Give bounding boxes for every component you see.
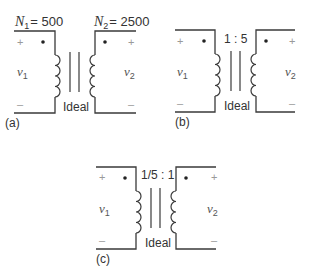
secondary-minus: – [211,234,218,246]
ideal-label: Ideal [224,99,250,113]
secondary-plus: + [211,171,217,183]
secondary-voltage-label: v2 [124,64,135,81]
secondary-coil-icon [90,55,95,97]
primary-voltage-label: v1 [177,64,188,81]
secondary-voltage-label: v2 [285,64,296,81]
primary-voltage-label: v1 [99,201,110,218]
secondary-coil-icon [171,191,176,233]
secondary-plus: + [128,36,134,48]
panel-caption: (c) [96,252,110,266]
primary-minus: – [177,97,184,109]
turns-ratio-label: 1/5 : 1 [141,168,175,182]
panel-b: 1 : 5 + – v1 + – v2 Ideal (b) [175,30,296,129]
primary-minus: – [99,234,106,246]
secondary-turns-label: N2= 2500 [93,14,149,31]
primary-polarity-dot [202,39,206,43]
secondary-coil-icon [251,54,256,96]
secondary-polarity-dot [184,176,188,180]
primary-voltage-label: v1 [17,64,28,81]
transformer-diagram: N1= 500 N2= 2500 + – v1 + – v2 Ideal (a) [0,0,314,273]
primary-turns-label: N1= 500 [14,14,63,31]
panel-a: N1= 500 N2= 2500 + – v1 + – v2 Ideal (a) [5,14,149,130]
secondary-polarity-dot [264,39,268,43]
panel-caption: (a) [5,116,20,130]
panel-caption: (b) [175,115,190,129]
secondary-minus: – [128,98,135,110]
panel-c: 1/5 : 1 + – v1 + – v2 Ideal (c) [96,167,218,266]
primary-coil-icon [215,54,220,96]
turns-ratio-label: 1 : 5 [224,32,248,46]
primary-plus: + [177,35,183,47]
ideal-label: Ideal [63,100,89,114]
primary-plus: + [99,171,105,183]
secondary-voltage-label: v2 [207,201,218,218]
primary-coil-icon [55,55,60,97]
secondary-plus: + [289,35,295,47]
secondary-polarity-dot [103,40,107,44]
primary-polarity-dot [123,176,127,180]
secondary-minus: – [289,97,296,109]
primary-plus: + [17,36,23,48]
primary-coil-icon [136,191,141,233]
primary-polarity-dot [41,40,45,44]
primary-minus: – [17,98,24,110]
ideal-label: Ideal [145,236,171,250]
